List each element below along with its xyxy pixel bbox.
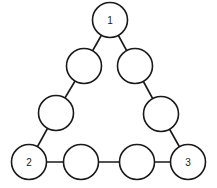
edges-layer <box>29 20 188 162</box>
node-circle <box>67 49 102 84</box>
node-label: 2 <box>26 157 32 168</box>
node-circle <box>64 145 99 180</box>
node-circle <box>120 145 155 180</box>
node-circle <box>39 96 74 131</box>
node-circle <box>144 97 179 132</box>
node-left-upper <box>67 49 102 84</box>
node-bottom-mid-2 <box>120 145 155 180</box>
node-circle <box>118 49 153 84</box>
node-left-lower <box>39 96 74 131</box>
node-bottom-left: 2 <box>12 145 47 180</box>
nodes-layer: 123 <box>12 3 206 180</box>
node-right-upper <box>118 49 153 84</box>
node-top: 1 <box>93 3 128 38</box>
node-label: 3 <box>185 157 191 168</box>
node-bottom-mid-1 <box>64 145 99 180</box>
diagram-canvas: 123 <box>0 0 217 188</box>
node-bottom-right: 3 <box>171 145 206 180</box>
node-right-lower <box>144 97 179 132</box>
triangle-diagram: 123 <box>0 0 217 188</box>
node-label: 1 <box>107 15 113 26</box>
